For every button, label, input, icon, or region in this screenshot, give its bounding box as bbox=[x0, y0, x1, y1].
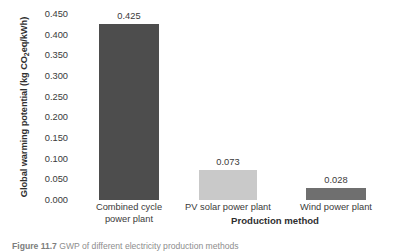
x-axis-category-line: Wind power plant bbox=[277, 202, 395, 214]
figure-container: Global warming potential (kg CO2eq/kWh) … bbox=[0, 0, 396, 251]
y-axis-tick-label: 0.050 bbox=[25, 174, 68, 184]
y-axis-tick-label: 0.350 bbox=[25, 50, 68, 60]
bar-group: 0.073 bbox=[199, 14, 257, 200]
bar bbox=[306, 188, 366, 200]
plot-area: 0.4250.0730.028 bbox=[72, 14, 392, 200]
y-axis-tick-label: 0.300 bbox=[25, 71, 68, 81]
x-axis-category-label: PV solar power plant bbox=[169, 202, 287, 214]
bar-group: 0.425 bbox=[99, 14, 159, 200]
figure-caption-text: GWP of different electricity production … bbox=[59, 241, 238, 251]
bar-value-label: 0.073 bbox=[199, 157, 257, 167]
bar-group: 0.028 bbox=[306, 14, 366, 200]
x-axis-category-line: power plant bbox=[70, 214, 188, 226]
x-axis-title: Production method bbox=[190, 215, 360, 226]
bar-value-label: 0.028 bbox=[306, 175, 366, 185]
bar bbox=[199, 170, 257, 200]
figure-caption-label: Figure 11.7 bbox=[12, 241, 57, 251]
y-axis-tick-label: 0.150 bbox=[25, 133, 68, 143]
y-axis-tick-label: 0.400 bbox=[25, 30, 68, 40]
y-axis-tick-label: 0.200 bbox=[25, 112, 68, 122]
x-axis-category-line: PV solar power plant bbox=[169, 202, 287, 214]
y-axis-tick-labels: 0.0000.0500.1000.1500.2000.2500.3000.350… bbox=[25, 0, 68, 251]
bar-value-label: 0.425 bbox=[99, 11, 159, 21]
y-axis-tick-label: 0.250 bbox=[25, 92, 68, 102]
bar bbox=[99, 24, 159, 200]
y-axis-tick-label: 0.450 bbox=[25, 9, 68, 19]
y-axis-tick-label: 0.000 bbox=[25, 195, 68, 205]
y-axis-tick-label: 0.100 bbox=[25, 154, 68, 164]
x-axis-category-label: Wind power plant bbox=[277, 202, 395, 214]
figure-caption: Figure 11.7 GWP of different electricity… bbox=[12, 241, 396, 251]
